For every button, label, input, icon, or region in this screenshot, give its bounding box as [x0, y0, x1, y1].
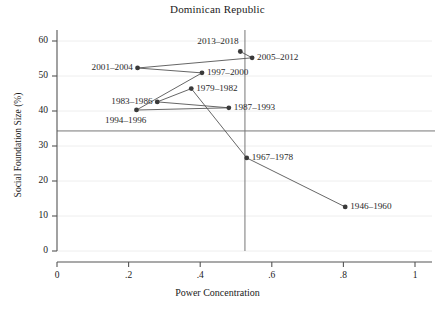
y-axis-tick-label: 30: [22, 140, 48, 150]
plot-area: [0, 0, 435, 312]
y-axis-tick-label: 10: [22, 210, 48, 220]
data-point-label: 1946–1960: [350, 201, 391, 211]
data-point-marker[interactable]: [250, 55, 255, 60]
data-point-label: 1987–1993: [234, 102, 275, 112]
y-axis-tick-label: 0: [22, 245, 48, 255]
data-point-label: 2013–2018: [197, 36, 238, 46]
data-point-marker[interactable]: [155, 100, 160, 105]
y-axis-tick-label: 20: [22, 175, 48, 185]
x-axis-tick-label: 1: [402, 270, 428, 280]
data-point-marker[interactable]: [238, 49, 243, 54]
data-point-marker[interactable]: [134, 108, 139, 113]
data-point-marker[interactable]: [226, 105, 231, 110]
data-point-marker[interactable]: [343, 205, 348, 210]
y-axis-tick-label: 60: [22, 35, 48, 45]
data-point-label: 1967–1978: [252, 152, 293, 162]
data-point-marker[interactable]: [189, 86, 194, 91]
data-point-label: 2005–2012: [257, 52, 298, 62]
x-axis-tick-label: .4: [187, 270, 213, 280]
data-point-marker[interactable]: [135, 66, 140, 71]
data-point-label: 1997–2000: [207, 67, 248, 77]
chart-container: Dominican Republic Social Foundation Siz…: [0, 0, 435, 312]
x-axis-tick-label: .2: [116, 270, 142, 280]
data-point-label: 2001–2004: [92, 62, 133, 72]
data-point-label: 1979–1982: [196, 83, 237, 93]
x-axis-tick-label: 0: [44, 270, 70, 280]
data-point-marker[interactable]: [200, 70, 205, 75]
y-axis-tick-label: 50: [22, 70, 48, 80]
y-axis-tick-label: 40: [22, 105, 48, 115]
data-point-marker[interactable]: [244, 156, 249, 161]
data-point-label: 1994–1996: [105, 115, 146, 125]
x-axis-tick-label: .8: [330, 270, 356, 280]
x-axis-tick-label: .6: [259, 270, 285, 280]
data-point-label: 1983–1986: [111, 96, 152, 106]
